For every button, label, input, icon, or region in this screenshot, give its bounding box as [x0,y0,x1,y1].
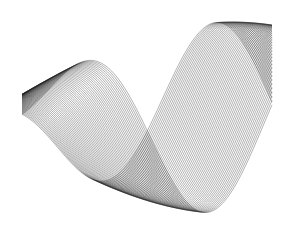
ribbon-line [22,42,272,207]
ribbon-graphic [0,0,306,236]
ribbon-line [22,23,272,197]
ribbon-line [22,24,272,199]
ribbon-line [22,67,272,211]
ribbon-line [22,25,272,201]
